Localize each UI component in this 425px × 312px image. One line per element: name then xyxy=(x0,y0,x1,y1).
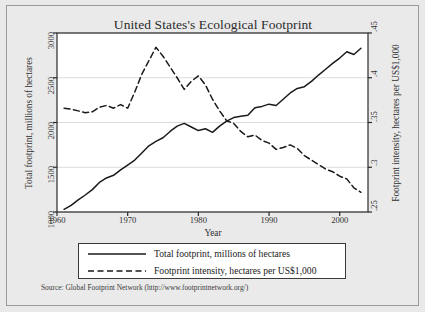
legend-key-dashed xyxy=(88,266,146,276)
legend-item: Total footprint, millions of hectares xyxy=(79,245,345,262)
chart-figure: United States's Ecological Footprint Tot… xyxy=(0,0,425,312)
legend-label: Total footprint, millions of hectares xyxy=(154,248,290,259)
source-note: Source: Global Footprint Network (http:/… xyxy=(41,283,248,292)
legend-label: Footprint intensity, hectares per US$1,0… xyxy=(154,265,316,276)
legend-item: Footprint intensity, hectares per US$1,0… xyxy=(79,262,345,279)
chart-legend: Total footprint, millions of hectaresFoo… xyxy=(78,243,346,279)
legend-key-solid xyxy=(88,249,146,259)
